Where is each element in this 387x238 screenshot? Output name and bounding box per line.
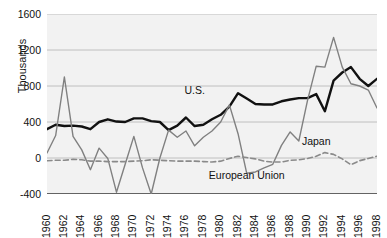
x-tick-label: 1966 [92, 198, 104, 238]
x-tick-label: 1996 [352, 198, 364, 238]
x-tick-label: 1960 [40, 198, 52, 238]
plot-area [47, 14, 377, 194]
x-tick-label: 1964 [74, 198, 86, 238]
x-tick-label: 1982 [231, 198, 243, 238]
x-tick-label: 1990 [300, 198, 312, 238]
x-tick-label: 1994 [335, 198, 347, 238]
y-tick-label: 800 [7, 81, 41, 91]
x-tick-label: 1970 [126, 198, 138, 238]
x-tick-label: 1980 [213, 198, 225, 238]
x-tick-label: 1986 [265, 198, 277, 238]
y-tick-label: 1200 [7, 45, 41, 55]
plot-svg [47, 14, 377, 194]
y-tick-label: -400 [7, 189, 41, 199]
x-tick-label: 1976 [178, 198, 190, 238]
series-label-european-union: European Union [209, 169, 285, 181]
x-axis-tick-labels: 1960196219641966196819701972197419761978… [47, 196, 377, 238]
x-tick-label: 1978 [196, 198, 208, 238]
x-tick-label: 1984 [248, 198, 260, 238]
x-tick-label: 1962 [57, 198, 69, 238]
chart-figure: Thousands 160012008004000-400 1960196219… [0, 0, 387, 238]
y-tick-label: 1600 [7, 9, 41, 19]
x-tick-label: 1988 [283, 198, 295, 238]
x-tick-label: 1974 [161, 198, 173, 238]
x-tick-label: 1998 [370, 198, 382, 238]
series-label-u-s: U.S. [184, 84, 204, 96]
x-tick-label: 1972 [144, 198, 156, 238]
y-axis-tick-labels: 160012008004000-400 [0, 0, 41, 238]
x-tick-label: 1992 [317, 198, 329, 238]
x-tick-label: 1968 [109, 198, 121, 238]
series-label-japan: Japan [302, 135, 331, 147]
y-tick-label: 400 [7, 117, 41, 127]
y-tick-label: 0 [7, 153, 41, 163]
